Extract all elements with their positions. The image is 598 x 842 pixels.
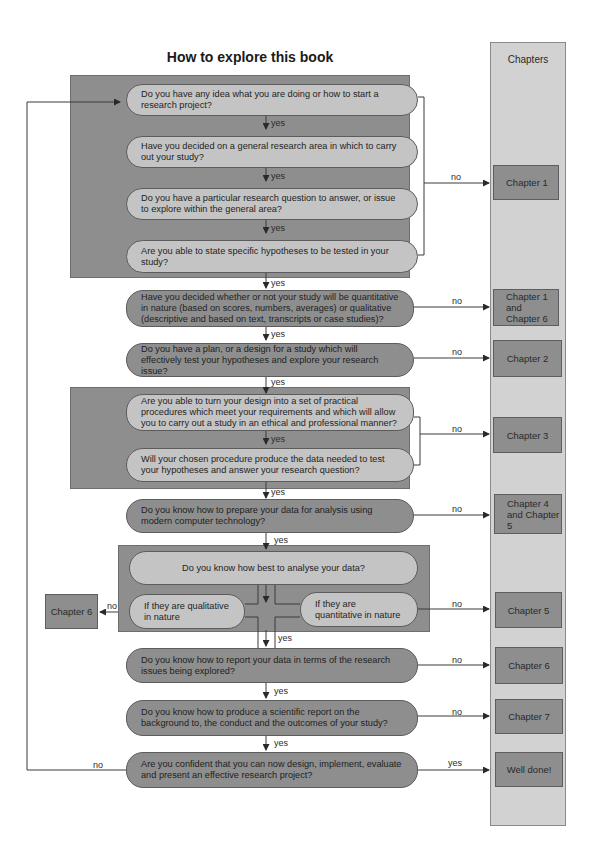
option-qualitative[interactable]: If they are qualitative in nature [129,594,245,629]
question-procedures[interactable]: Are you able to turn your design into a … [126,394,414,431]
no-label: no [93,760,103,770]
chapter-2-box[interactable]: Chapter 2 [493,340,562,377]
question-analyse-data[interactable]: Do you know how best to analyse your dat… [129,551,418,585]
yes-label: yes [271,377,285,387]
question-quant-qual[interactable]: Have you decided whether or not your stu… [126,290,414,327]
option-quantitative[interactable]: If they are quantitative in nature [300,592,418,627]
yes-label: yes [271,223,285,233]
yes-label: yes [274,738,288,748]
no-label: no [452,347,462,357]
no-label: no [452,296,462,306]
no-label: no [107,601,117,611]
question-research-question[interactable]: Do you have a particular research questi… [126,188,418,220]
yes-label: yes [271,434,285,444]
question-prepare-data[interactable]: Do you know how to prepare your data for… [126,499,414,533]
chapter-3-box[interactable]: Chapter 3 [493,417,562,453]
well-done-box[interactable]: Well done! [495,752,563,787]
question-research-area[interactable]: Have you decided on a general research a… [126,136,418,168]
question-report-data[interactable]: Do you know how to report your data in t… [126,648,418,683]
no-label: no [452,599,462,609]
yes-label: yes [271,278,285,288]
chapter-5-box[interactable]: Chapter 5 [495,592,562,628]
question-plan-design[interactable]: Do you have a plan, or a design for a st… [126,343,414,377]
chapter-1-box[interactable]: Chapter 1 [493,165,559,200]
yes-label: yes [271,118,285,128]
chapter-1-and-6-box[interactable]: Chapter 1 and Chapter 6 [493,289,559,326]
yes-label: yes [271,329,285,339]
yes-label: yes [271,171,285,181]
yes-label: yes [271,487,285,497]
yes-label: yes [278,633,292,643]
yes-label: yes [448,758,462,768]
no-label: no [452,707,462,717]
chapter-6-left-box[interactable]: Chapter 6 [45,594,98,629]
yes-label: yes [274,686,288,696]
chapter-4-and-5-box[interactable]: Chapter 4 and Chapter 5 [494,494,562,534]
question-confident[interactable]: Are you confident that you can now desig… [126,752,418,788]
no-label: no [452,424,462,434]
yes-label: yes [274,535,288,545]
question-scientific-report[interactable]: Do you know how to produce a scientific … [126,700,418,736]
question-data-needed[interactable]: Will your chosen procedure produce the d… [126,448,414,482]
no-label: no [452,504,462,514]
no-label: no [452,655,462,665]
chapter-7-box[interactable]: Chapter 7 [495,699,563,734]
question-hypotheses[interactable]: Are you able to state specific hypothese… [126,240,418,273]
chapter-6-box[interactable]: Chapter 6 [495,647,563,684]
question-start-project[interactable]: Do you have any idea what you are doing … [126,84,418,116]
no-label: no [451,172,461,182]
